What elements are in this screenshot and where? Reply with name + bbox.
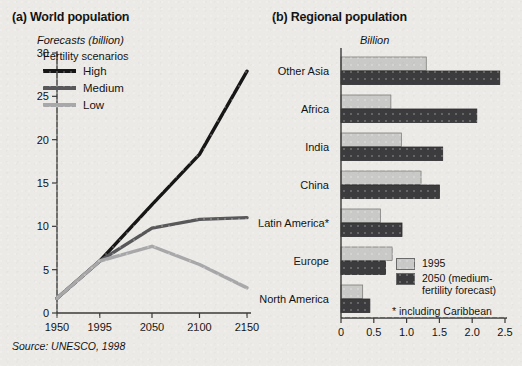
panel-b-category-label: China [300, 179, 330, 191]
legend-swatch-2050 [396, 273, 415, 285]
legend-swatch-1995 [396, 258, 415, 270]
panel-b-category-labels: Other AsiaAfricaIndiaChinaLatin America*… [258, 65, 330, 305]
panel-b-bar [341, 247, 392, 261]
panel-b-bar [341, 185, 439, 199]
source-note: Source: UNESCO, 1998 [12, 340, 125, 352]
panel-b-category-label: Europe [294, 255, 329, 267]
panel-b-category-label: Africa [301, 103, 330, 115]
panel-b-bar [341, 261, 386, 275]
panel-b-legend: 1995 2050 (medium-fertility forecast) [396, 258, 522, 299]
panel-b-bar [341, 299, 370, 313]
panel-b-bar [341, 171, 421, 185]
panel-b-xtick: 0 [338, 326, 344, 338]
legend-label-2050: 2050 (medium-fertility forecast) [422, 273, 522, 296]
panel-b-bar [341, 223, 402, 237]
panel-b-bar [341, 209, 380, 223]
panel-b-bar [341, 285, 363, 299]
legend-label-1995: 1995 [422, 258, 445, 270]
panel-b-xtick: 1.5 [432, 326, 447, 338]
legend-item-1995: 1995 [396, 258, 522, 270]
panel-b-bar [341, 57, 426, 71]
panel-b-xtick: 2.5 [497, 326, 512, 338]
figure-canvas: (a) World population (b) Regional popula… [0, 0, 522, 366]
panel-b-category-label: India [305, 141, 330, 153]
panel-b-category-label: Other Asia [278, 65, 330, 77]
panel-b-xtick: 2.0 [465, 326, 480, 338]
panel-b-xtick: 0.5 [366, 326, 381, 338]
panel-b-category-label: North America [259, 293, 330, 305]
panel-b-bar [341, 133, 401, 147]
legend-item-2050: 2050 (medium-fertility forecast) [396, 273, 522, 296]
panel-b-bar [341, 71, 500, 85]
panel-b-xtick: 1.0 [399, 326, 414, 338]
panel-b-category-label: Latin America* [258, 217, 330, 229]
panel-b-footnote: * including Caribbean [392, 305, 492, 317]
panel-b-bar [341, 147, 443, 161]
panel-b-bar [341, 95, 391, 109]
panel-b-bar [341, 109, 477, 123]
